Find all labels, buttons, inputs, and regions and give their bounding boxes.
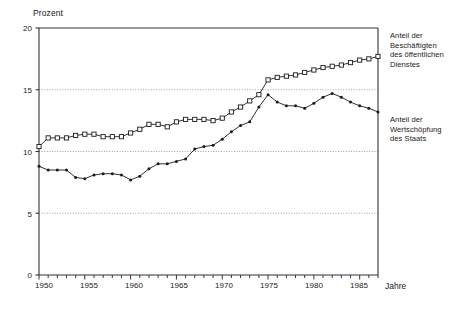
chart-container: Prozent Jahre 20 15 10 5 0 1950 1955 196… xyxy=(0,0,459,310)
series-0 xyxy=(37,54,380,148)
y-axis-tick-label-15: 15 xyxy=(14,86,32,95)
y-axis-tick-label-10: 10 xyxy=(14,148,32,157)
y-axis-title: Prozent xyxy=(33,8,63,18)
data-series-layer xyxy=(37,54,380,181)
y-axis-tick-label-0: 0 xyxy=(14,271,32,280)
x-axis-tick-label-1960: 1960 xyxy=(119,281,149,290)
y-axis-tick-label-20: 20 xyxy=(14,24,32,33)
x-axis-tick-label-1975: 1975 xyxy=(254,281,284,290)
x-axis-tick-label-1980: 1980 xyxy=(299,281,329,290)
series-1 xyxy=(38,92,380,181)
x-axis-tick-label-1965: 1965 xyxy=(164,281,194,290)
y-axis-tick-label-5: 5 xyxy=(14,210,32,219)
x-axis-tick-label-1985: 1985 xyxy=(344,281,374,290)
x-axis-title: Jahre xyxy=(385,281,406,291)
legend-item-wertschoepfung: Anteil der Wertschöpfung des Staats xyxy=(390,115,458,144)
x-axis-ticks xyxy=(39,275,378,280)
x-axis-tick-label-1955: 1955 xyxy=(74,281,104,290)
x-axis-tick-label-1970: 1970 xyxy=(209,281,239,290)
legend-item-beschaeftigte: Anteil der Beschäftigten des öffentliche… xyxy=(390,31,458,69)
gridlines xyxy=(39,90,378,214)
x-axis-tick-label-1950: 1950 xyxy=(29,281,59,290)
